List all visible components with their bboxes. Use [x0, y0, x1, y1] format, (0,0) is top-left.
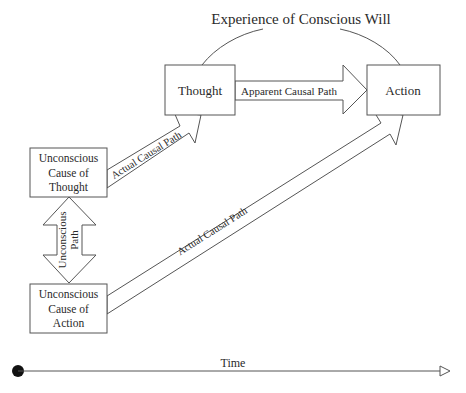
timeline-arrowhead-icon	[440, 366, 450, 376]
action-label: Action	[385, 83, 421, 98]
uct-line1: Unconscious	[39, 152, 99, 164]
uct-line2: Cause of	[48, 167, 89, 179]
uct-line3: Thought	[49, 181, 89, 194]
diagram-title: Experience of Conscious Will	[211, 11, 391, 27]
actual-causal-path-action-arrow	[107, 110, 403, 314]
unconscious-path-label-line2: Path	[68, 230, 80, 250]
apparent-causal-path-label: Apparent Causal Path	[241, 85, 337, 97]
thought-label: Thought	[178, 83, 222, 98]
timeline-label: Time	[221, 356, 246, 370]
experience-arc-right	[340, 29, 400, 65]
actual-causal-path-thought-label: Actual Causal Path	[109, 129, 184, 181]
unconscious-path-label-line1: Unconscious	[56, 212, 68, 269]
conscious-will-diagram: Experience of Conscious Will Apparent Ca…	[0, 0, 466, 393]
experience-arc-left	[202, 29, 263, 65]
uca-line1: Unconscious	[39, 288, 99, 300]
uca-line3: Action	[53, 317, 85, 329]
uca-line2: Cause of	[48, 303, 89, 315]
